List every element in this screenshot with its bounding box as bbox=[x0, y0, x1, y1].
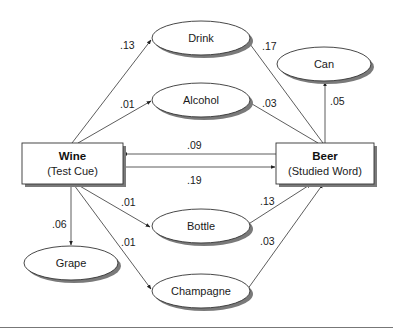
node-champagne-label: Champagne bbox=[171, 285, 231, 297]
node-wine-subtitle: (Test Cue) bbox=[47, 165, 98, 177]
weight-wine-alcohol: .01 bbox=[120, 98, 135, 110]
weight-champagne-beer: .03 bbox=[260, 235, 275, 247]
weight-bottle-beer: .13 bbox=[260, 195, 275, 207]
node-champagne: Champagne bbox=[152, 274, 253, 311]
weight-wine-grape: .06 bbox=[52, 218, 67, 230]
association-diagram: .13 .01 .17 .03 .05 .09 .19 .06 .01 .01 … bbox=[0, 0, 396, 331]
node-wine: Wine (Test Cue) bbox=[22, 143, 126, 187]
weight-beer-can: .05 bbox=[330, 95, 345, 107]
node-bottle: Bottle bbox=[152, 209, 253, 246]
node-drink-label: Drink bbox=[188, 32, 214, 44]
weight-wine-drink: .13 bbox=[120, 39, 135, 51]
weight-wine-bottle: .01 bbox=[121, 196, 136, 208]
weight-beer-alcohol: .03 bbox=[262, 97, 277, 109]
edge-bottle-beer bbox=[247, 184, 311, 225]
weight-wine-beer: .19 bbox=[187, 174, 202, 186]
node-alcohol: Alcohol bbox=[152, 83, 253, 120]
node-grape: Grape bbox=[24, 246, 121, 283]
node-bottle-label: Bottle bbox=[187, 220, 215, 232]
node-wine-title: Wine bbox=[59, 150, 86, 162]
node-can: Can bbox=[277, 47, 374, 84]
node-beer-subtitle: (Studied Word) bbox=[288, 165, 362, 177]
node-alcohol-label: Alcohol bbox=[183, 94, 219, 106]
node-grape-label: Grape bbox=[56, 257, 87, 269]
node-drink: Drink bbox=[152, 21, 253, 58]
weight-beer-wine: .09 bbox=[187, 139, 202, 151]
weight-wine-champagne: .01 bbox=[121, 236, 136, 248]
node-beer: Beer (Studied Word) bbox=[276, 143, 377, 187]
node-can-label: Can bbox=[314, 58, 334, 70]
edge-champagne-beer bbox=[247, 184, 323, 290]
edge-wine-drink bbox=[72, 40, 151, 143]
weight-beer-drink: .17 bbox=[262, 40, 277, 52]
edge-wine-bottle bbox=[78, 185, 150, 227]
node-beer-title: Beer bbox=[312, 150, 338, 162]
edge-wine-alcohol bbox=[78, 101, 151, 143]
